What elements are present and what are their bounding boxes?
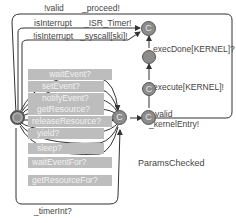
syscall-setevent: setEvent? <box>28 81 104 92</box>
kernel-entry-sync: _kernelEntry! <box>149 119 199 129</box>
execute-label: execute[KERNEL]! <box>153 82 224 92</box>
syscall-waitevent: waitEvent? <box>28 69 112 80</box>
syscall-yield: yield? <box>28 128 104 139</box>
initial-location <box>10 110 25 125</box>
committed-dispatch: C <box>112 110 127 125</box>
sync-isr-timer: _ISR_Timer! <box>84 18 131 28</box>
syscall-notifyevent: notifyEvent? <box>28 93 104 104</box>
exec-done-label: execDone[KERNEL]? <box>153 44 235 54</box>
exec-done-location: C <box>141 21 156 36</box>
params-checked-label: ParamsChecked <box>138 158 205 168</box>
syscall-waiteventfor: waitEventFor? <box>28 157 112 168</box>
valid-guard: valid <box>155 109 172 119</box>
guard-not-valid: !valid <box>44 3 64 13</box>
syscall-getresourcefor: getResourceFor? <box>28 175 112 186</box>
guard-is-interrupt: isInterrupt <box>34 18 72 28</box>
guard-not-interrupt: !isInterrupt <box>33 31 73 41</box>
sync-syscall: _syscall[ski]! <box>80 31 128 41</box>
params-checked-location: C <box>141 110 156 125</box>
sync-proceed: _proceed! <box>82 3 120 13</box>
syscall-sleep: sleep? <box>28 143 104 154</box>
syscall-getresource: getResource? <box>28 104 104 115</box>
timer-interrupt: _timerInt? <box>34 206 72 216</box>
executing-location <box>142 50 156 64</box>
syscall-releaseresource: releaseResource? <box>28 116 112 127</box>
valid-location: C <box>142 82 156 96</box>
